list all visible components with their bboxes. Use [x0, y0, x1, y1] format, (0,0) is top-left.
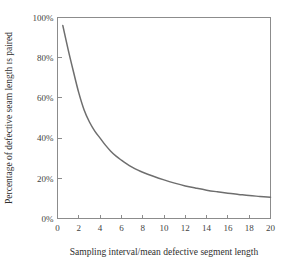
x-tick-label: 10	[160, 223, 170, 233]
x-tick-label: 20	[266, 223, 276, 233]
y-axis-title: Percentage of defective seam length ɪs p…	[4, 32, 14, 204]
line-chart: 0%20%40%60%80%100% 02468101214161820 Sam…	[0, 0, 282, 261]
x-tick-label: 12	[181, 223, 190, 233]
x-tick-label: 14	[202, 223, 212, 233]
y-tick-label: 80%	[37, 53, 54, 63]
x-tick-label: 6	[119, 223, 124, 233]
x-axis-title: Sampling interval/mean defective segment…	[70, 247, 259, 257]
chart-figure: 0%20%40%60%80%100% 02468101214161820 Sam…	[0, 0, 282, 261]
y-tick-label: 0%	[42, 214, 55, 224]
y-tick-label: 20%	[37, 174, 54, 184]
y-tick-label: 100%	[33, 13, 55, 23]
x-tick-label: 2	[77, 223, 82, 233]
x-tick-label: 16	[223, 223, 233, 233]
x-tick-label: 8	[140, 223, 145, 233]
x-tick-label: 18	[245, 223, 255, 233]
x-tick-label: 0	[55, 223, 60, 233]
y-tick-label: 40%	[37, 133, 54, 143]
x-tick-label: 4	[98, 223, 103, 233]
y-tick-label: 60%	[37, 93, 54, 103]
